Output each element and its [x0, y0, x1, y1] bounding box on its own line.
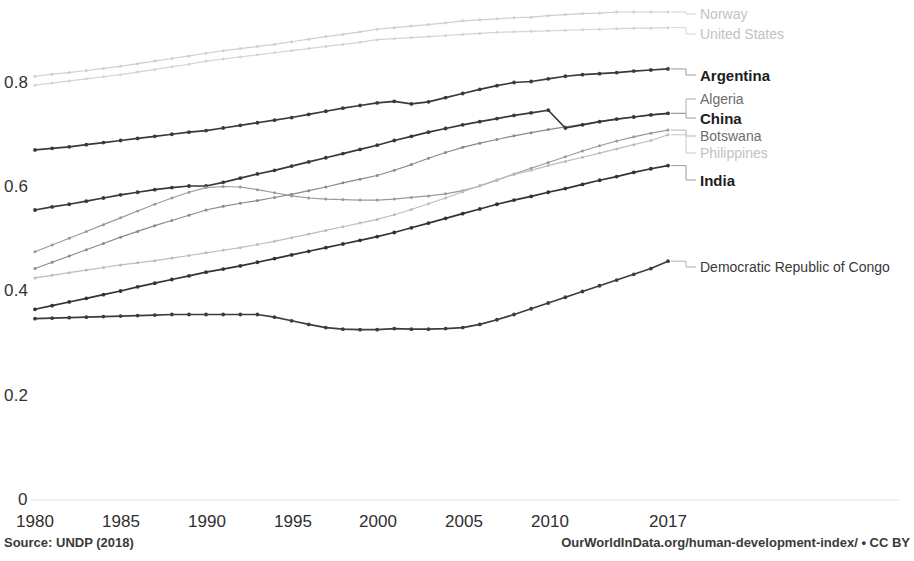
data-point [34, 276, 37, 279]
data-point [102, 293, 106, 297]
data-point [581, 12, 584, 15]
data-point [307, 189, 310, 192]
series-label-botswana[interactable]: Botswana [700, 128, 761, 144]
data-point [153, 60, 156, 63]
series-label-india[interactable]: India [700, 172, 735, 189]
data-point [410, 163, 413, 166]
data-point [50, 205, 54, 209]
data-point [444, 127, 448, 131]
y-tick-0.4: 0.4 [4, 281, 28, 301]
data-point [513, 134, 516, 137]
data-point [427, 221, 431, 225]
data-point [187, 214, 190, 217]
data-point [495, 17, 498, 20]
data-point [478, 207, 482, 211]
data-point [444, 197, 447, 200]
data-point [444, 327, 448, 331]
data-point [393, 169, 396, 172]
y-tick-0.8: 0.8 [4, 73, 28, 93]
y-tick-0.6: 0.6 [4, 177, 28, 197]
data-point [564, 13, 567, 16]
data-point [324, 35, 327, 38]
data-point [273, 51, 276, 54]
data-point [615, 117, 619, 121]
data-point [444, 96, 448, 100]
data-point [547, 29, 550, 32]
data-point [666, 164, 670, 168]
data-point [461, 33, 464, 36]
data-point [632, 272, 636, 276]
data-point [273, 257, 277, 261]
data-point [238, 176, 242, 180]
data-point [393, 198, 396, 201]
data-point [341, 106, 345, 110]
x-tick-1980: 1980 [16, 512, 54, 532]
data-point [581, 183, 585, 187]
data-point [581, 73, 585, 77]
data-point [136, 190, 140, 194]
data-point [666, 111, 670, 115]
data-point [256, 260, 260, 264]
series-philippines [34, 133, 670, 279]
data-point [581, 290, 585, 294]
data-point [410, 196, 413, 199]
data-point [33, 317, 37, 321]
data-point [102, 266, 105, 269]
data-point [33, 148, 37, 152]
data-point [290, 253, 294, 257]
series-label-norway[interactable]: Norway [700, 6, 747, 22]
data-point [341, 33, 344, 36]
series-label-argentina[interactable]: Argentina [700, 67, 770, 84]
data-point [409, 102, 413, 106]
data-point [359, 199, 362, 202]
data-point [495, 178, 498, 181]
data-point [547, 128, 550, 131]
data-point [307, 323, 311, 327]
data-point [153, 259, 156, 262]
data-point [649, 10, 652, 13]
data-point [427, 35, 430, 38]
data-point [615, 175, 619, 179]
data-point [324, 326, 328, 330]
data-point [324, 156, 328, 160]
data-point [119, 314, 123, 318]
data-point [495, 318, 499, 322]
data-point [153, 224, 156, 227]
label-leader-line [671, 99, 696, 113]
data-point [512, 198, 516, 202]
data-point [170, 186, 174, 190]
data-point [33, 208, 37, 212]
data-point [290, 319, 294, 323]
data-point [136, 137, 140, 141]
data-point [136, 314, 140, 318]
data-point [359, 178, 362, 181]
data-point [222, 249, 225, 252]
data-point [324, 109, 328, 113]
series-label-philippines[interactable]: Philippines [700, 145, 768, 161]
series-label-algeria[interactable]: Algeria [700, 91, 744, 107]
data-point [427, 130, 431, 134]
data-point [221, 313, 225, 317]
data-point [632, 135, 635, 138]
data-point [461, 190, 464, 193]
series-label-drc[interactable]: Democratic Republic of Congo [700, 259, 890, 275]
data-point [632, 115, 636, 119]
data-point [461, 19, 464, 22]
series-label-united-states[interactable]: United States [700, 26, 784, 42]
data-point [307, 160, 311, 164]
data-point [205, 209, 208, 212]
data-point [204, 313, 208, 317]
data-point [547, 164, 550, 167]
data-point [615, 278, 619, 282]
data-point [393, 37, 396, 40]
data-point [102, 223, 105, 226]
data-point [461, 146, 464, 149]
data-point [84, 199, 88, 203]
series-india [33, 164, 670, 311]
data-point [170, 278, 174, 282]
series-label-china[interactable]: China [700, 110, 742, 127]
data-point [530, 169, 533, 172]
data-point [375, 101, 379, 105]
data-point [666, 259, 670, 263]
data-point [632, 69, 636, 73]
